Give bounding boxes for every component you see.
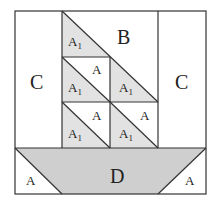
label-a-hull-right: A [185,173,195,188]
label-a-r1c1: A [92,62,102,77]
label-a-r2c2: A [140,108,150,123]
label-a-hull-left: A [26,173,36,188]
label-d: D [110,165,124,187]
label-a-r2c1: A [92,108,102,123]
label-c-left: C [30,71,43,93]
label-b: B [117,26,130,48]
label-c-right: C [175,71,188,93]
sailboat-quilt-diagram: B C C D A A A A A A1 A1 A1 A1 A1 [0,0,217,205]
